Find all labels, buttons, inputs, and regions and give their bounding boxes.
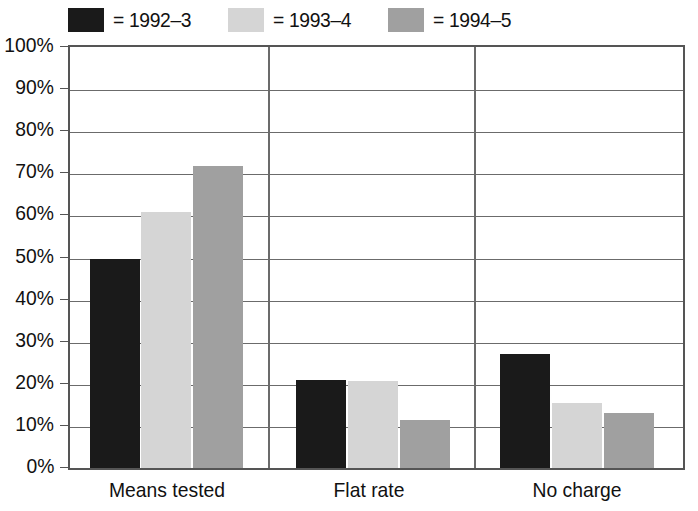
legend-swatch-1994-5 [388, 8, 424, 32]
x-axis-label-no-charge: No charge [475, 478, 677, 502]
bar-flat-rate-1993-4 [348, 381, 398, 468]
y-tick-mark-10 [60, 425, 68, 426]
bar-flat-rate-1992-3 [296, 380, 346, 468]
bar-chart: = 1992–3 = 1993–4 = 1994–5 0%10%20%30%40… [0, 0, 698, 511]
y-tick-mark-60 [60, 214, 68, 215]
bar-series-container [70, 47, 683, 468]
legend-swatch-1992-3 [68, 8, 104, 32]
legend-label-1993-4: = 1993–4 [273, 8, 351, 32]
bar-no-charge-1994-5 [604, 413, 654, 468]
y-tick-mark-30 [60, 341, 68, 342]
y-tick-label-0: 0% [26, 454, 54, 478]
y-tick-mark-40 [60, 299, 68, 300]
y-tick-mark-90 [60, 88, 68, 89]
y-tick-mark-100 [60, 46, 68, 47]
bar-means-tested-1993-4 [141, 212, 191, 468]
x-axis-label-means-tested: Means tested [66, 478, 268, 502]
plot-area [68, 45, 685, 470]
y-axis: 0%10%20%30%40%50%60%70%80%90%100% [0, 0, 68, 511]
bar-means-tested-1994-5 [193, 166, 243, 468]
chart-legend: = 1992–3 = 1993–4 = 1994–5 [68, 4, 548, 36]
y-tick-mark-20 [60, 383, 68, 384]
legend-item-1993-4: = 1993–4 [228, 8, 358, 32]
y-tick-label-50: 50% [15, 244, 54, 268]
bar-means-tested-1992-3 [90, 259, 140, 468]
bar-no-charge-1993-4 [552, 403, 602, 468]
legend-label-1994-5: = 1994–5 [433, 8, 511, 32]
legend-swatch-1993-4 [228, 8, 264, 32]
y-tick-label-100: 100% [5, 33, 54, 57]
bar-flat-rate-1994-5 [400, 420, 450, 468]
bar-no-charge-1992-3 [500, 354, 550, 468]
y-tick-label-40: 40% [15, 286, 54, 310]
legend-item-1994-5: = 1994–5 [388, 8, 518, 32]
y-tick-label-60: 60% [15, 201, 54, 225]
y-tick-mark-80 [60, 130, 68, 131]
legend-item-1992-3: = 1992–3 [68, 8, 198, 32]
y-tick-mark-50 [60, 257, 68, 258]
y-tick-label-20: 20% [15, 370, 54, 394]
y-tick-label-30: 30% [15, 328, 54, 352]
y-tick-label-90: 90% [15, 75, 54, 99]
y-tick-label-70: 70% [15, 159, 54, 183]
y-tick-label-10: 10% [15, 412, 54, 436]
x-axis-label-flat-rate: Flat rate [268, 478, 470, 502]
y-tick-label-80: 80% [15, 117, 54, 141]
y-tick-mark-70 [60, 172, 68, 173]
y-tick-mark-0 [60, 467, 68, 468]
legend-label-1992-3: = 1992–3 [113, 8, 191, 32]
